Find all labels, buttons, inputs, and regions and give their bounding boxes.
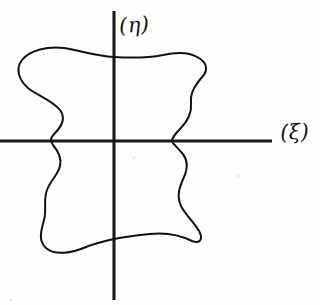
diagram-svg — [0, 0, 320, 305]
paper-speck — [133, 157, 135, 159]
closed-region-boundary — [18, 48, 206, 253]
vertical-axis-label: (η) — [118, 12, 150, 38]
paper-speck — [237, 175, 239, 177]
paper-speck — [10, 299, 12, 301]
figure-canvas: (η) (ξ) — [0, 0, 320, 305]
horizontal-axis-label: (ξ) — [279, 119, 310, 145]
